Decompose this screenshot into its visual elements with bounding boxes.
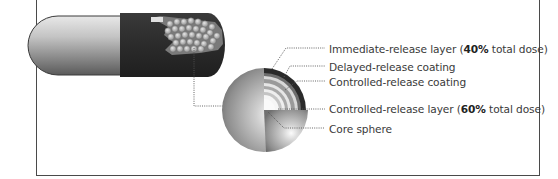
label-immediate-release-layer: Immediate-release layer (40% total dose) [329, 43, 548, 55]
label-delayed-release-coating: Delayed-release coating [329, 61, 455, 73]
label-core-sphere: Core sphere [329, 123, 392, 135]
label-controlled-release-coating: Controlled-release coating [329, 76, 466, 88]
label-controlled-release-layer: Controlled-release layer (60% total dose… [329, 103, 545, 115]
capsule-diagram [0, 0, 558, 179]
bead-cutaway-sphere-icon [222, 68, 308, 152]
